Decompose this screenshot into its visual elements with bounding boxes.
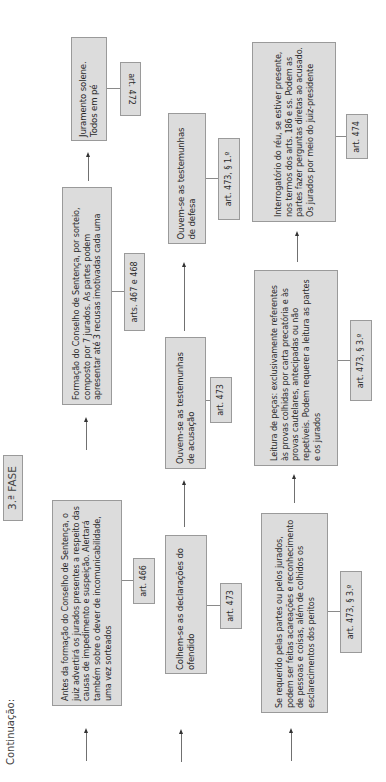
ref-connector: [336, 136, 346, 137]
flow-arrow-line: [86, 733, 87, 761]
step-box-juramento: Juramento solene. Todos em pé: [71, 37, 107, 141]
ref-box-art-473-p1: art. 473, § 1.º: [218, 138, 240, 220]
arrow-up-icon: [182, 480, 186, 485]
ref-box-art-473-p3-b: art. 473, § 3.º: [350, 320, 372, 401]
arrow-up-icon: [295, 231, 299, 236]
step-box-declaracoes-ofendido: Colhem-se as declarações do ofendido: [165, 535, 207, 674]
arrow-up-icon: [292, 474, 296, 479]
flow-arrow-line: [297, 236, 298, 262]
arrow-up-icon: [86, 152, 90, 157]
continuation-label: Continuação:: [2, 685, 18, 765]
flow-arrow-line: [291, 733, 292, 761]
step-box-formacao-conselho: Formação do Conselho de Sentença, por so…: [62, 187, 112, 405]
ref-connector: [338, 360, 350, 361]
ref-connector: [206, 178, 218, 179]
arrow-up-icon: [179, 729, 183, 734]
ref-connector: [328, 611, 340, 612]
ref-connector: [112, 291, 124, 292]
ref-connector: [207, 605, 220, 606]
arrow-up-icon: [84, 728, 88, 733]
ref-connector: [122, 580, 133, 581]
ref-box-art-473-a: art. 473: [220, 583, 242, 629]
ref-connector: [107, 88, 120, 89]
arrow-up-icon: [182, 262, 186, 267]
ref-box-art-473-b: art. 473: [210, 377, 232, 423]
step-box-acareacoes: Se requerido pelas partes ou pelos jurad…: [261, 513, 328, 713]
flow-arrow-line: [294, 479, 295, 503]
ref-box-art-466: art. 466: [133, 558, 155, 604]
flow-arrow-line: [184, 267, 185, 331]
step-box-interrogatorio: Interrogatório do réu, se estiver presen…: [252, 42, 336, 222]
ref-box-arts-467-468: arts. 467 e 468: [124, 253, 145, 331]
flow-arrow-line: [88, 157, 89, 181]
phase-badge: 3.ª FASE: [3, 455, 23, 521]
flow-arrow-line: [184, 485, 185, 527]
arrow-up-icon: [289, 728, 293, 733]
step-box-testemunhas-acusacao: Ouvem-se as testemunhas de acusação: [165, 337, 206, 469]
ref-box-art-473-p3-a: art. 473, § 3.º: [340, 571, 362, 653]
ref-box-art-472: art. 472: [120, 62, 141, 116]
step-box-testemunhas-defesa: Ouvem-se as testemunhas de defesa: [168, 113, 206, 244]
ref-box-art-474: art. 474: [346, 114, 368, 159]
step-box-antes-formacao: Antes da formação do Conselho de Sentenç…: [52, 500, 122, 706]
arrow-up-icon: [84, 417, 88, 422]
flow-arrow-line: [181, 734, 182, 762]
flow-arrow-line: [86, 422, 87, 450]
step-box-leitura-pecas: Leitura de peças: exclusivamente referen…: [254, 270, 338, 466]
